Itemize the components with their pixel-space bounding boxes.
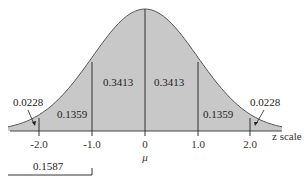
- region-label-left-outer: 0.1359: [57, 108, 88, 120]
- tick-plus-1: 1.0: [191, 138, 205, 150]
- tick-minus-1: -1.0: [83, 138, 101, 150]
- region-label-left-tail: 0.0228: [13, 96, 44, 108]
- tick-plus-2: 2.0: [243, 138, 257, 150]
- region-label-right-inner: 0.3413: [154, 76, 185, 88]
- region-label-right-tail: 0.0228: [250, 96, 281, 108]
- region-label-right-outer: 0.1359: [203, 108, 234, 120]
- mean-label: μ: [141, 151, 148, 163]
- bracket-label: 0.1587: [33, 160, 64, 172]
- region-label-left-inner: 0.3413: [103, 76, 134, 88]
- tick-minus-2: -2.0: [30, 138, 48, 150]
- axis-label: z scale: [272, 130, 302, 142]
- normal-distribution-chart: 0.3413 0.3413 0.1359 0.1359 0.0228 0.022…: [0, 0, 305, 187]
- tick-zero: 0: [142, 138, 148, 150]
